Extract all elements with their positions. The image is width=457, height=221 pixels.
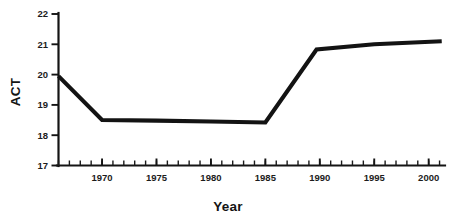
y-axis-title: ACT [8, 77, 23, 106]
x-tick-label: 1980 [200, 172, 221, 183]
x-tick-label: 1990 [309, 172, 330, 183]
y-axis-tick-labels: 171819202122 [37, 8, 48, 171]
data-line [59, 41, 442, 122]
data-series-group [59, 41, 442, 122]
y-tick-label: 17 [37, 160, 48, 171]
x-tick-label: 2000 [418, 172, 439, 183]
x-axis-title: Year [213, 199, 243, 214]
x-axis-group: 1970197519801985199019952000 [57, 159, 445, 184]
x-tick-label: 1970 [91, 172, 112, 183]
y-tick-label: 22 [37, 8, 48, 19]
x-axis-tick-labels: 1970197519801985199019952000 [91, 172, 439, 183]
line-chart: 171819202122 197019751980198519901995200… [0, 0, 457, 221]
x-tick-label: 1995 [364, 172, 386, 183]
x-tick-label: 1985 [255, 172, 277, 183]
x-tick-label: 1975 [146, 172, 168, 183]
y-tick-label: 21 [37, 39, 48, 50]
chart-figure: 171819202122 197019751980198519901995200… [0, 0, 457, 221]
y-tick-label: 19 [37, 99, 48, 110]
y-axis-group: 171819202122 [37, 8, 58, 171]
y-tick-label: 20 [37, 69, 48, 80]
y-tick-label: 18 [37, 130, 48, 141]
